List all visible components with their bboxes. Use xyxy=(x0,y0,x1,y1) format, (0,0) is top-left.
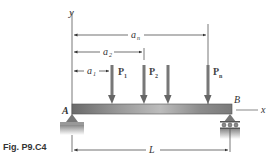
svg-text:n: n xyxy=(219,73,223,79)
x-axis: x xyxy=(236,104,266,115)
beam-diagram: y a n a 2 a 1 P 1 P 2 xyxy=(0,0,279,162)
dimension-a-n: a n xyxy=(74,24,208,104)
load-unlabeled xyxy=(164,65,172,104)
load-p2: P 2 xyxy=(140,65,158,104)
svg-text:L: L xyxy=(148,144,155,155)
beam xyxy=(72,104,232,114)
svg-text:a: a xyxy=(103,46,108,57)
svg-text:2: 2 xyxy=(109,52,112,58)
svg-text:1: 1 xyxy=(124,73,127,79)
svg-text:A: A xyxy=(61,105,69,116)
svg-text:a: a xyxy=(131,29,136,40)
dimension-a-2: a 2 xyxy=(74,46,144,60)
dimension-length: L xyxy=(74,144,228,155)
svg-text:n: n xyxy=(137,35,140,41)
svg-text:a: a xyxy=(87,65,92,76)
svg-text:B: B xyxy=(234,94,240,105)
load-p1: P 1 xyxy=(108,65,127,104)
svg-text:1: 1 xyxy=(93,71,96,77)
y-axis-label: y xyxy=(68,6,74,18)
svg-text:2: 2 xyxy=(155,73,158,79)
figure-caption: Fig. P9.C4 xyxy=(3,142,47,152)
roller-support-b: B xyxy=(220,94,240,152)
dimension-a-1: a 1 xyxy=(74,65,109,77)
load-pn: P n xyxy=(204,65,223,104)
svg-text:x: x xyxy=(260,104,266,115)
